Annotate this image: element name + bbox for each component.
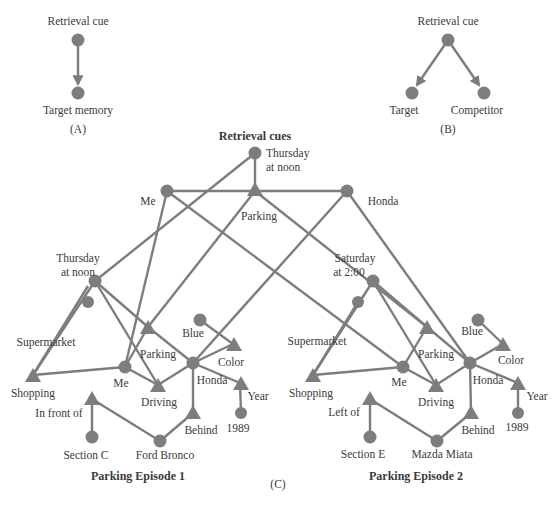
ep2-car-node xyxy=(431,435,444,448)
ep2-driving-label: Driving xyxy=(418,396,454,409)
ep1-car-node xyxy=(154,435,167,448)
panel-a-label: (A) xyxy=(70,123,86,136)
ep1-in-front-of-label: In front of xyxy=(35,407,82,419)
panel-b-label: (B) xyxy=(440,123,456,136)
retrieval-cue-label: Retrieval cue xyxy=(418,15,479,27)
retrieval-cue-label: Retrieval cue xyxy=(48,15,109,27)
target-memory-node xyxy=(72,87,85,100)
ep2-behind-node xyxy=(463,405,479,419)
ep2-time-node xyxy=(367,275,380,288)
ep1-behind-label: Behind xyxy=(184,424,217,436)
ep2-left-of-node xyxy=(362,391,378,405)
ep1-supermarket-node xyxy=(82,296,94,308)
ep2-year-node xyxy=(510,376,526,390)
ep1-car-label: Ford Bronco xyxy=(136,449,195,461)
target-node xyxy=(406,87,419,100)
ep1-section-label: Section C xyxy=(63,449,108,461)
ep2-honda-node xyxy=(464,357,477,370)
parking-episode-2: Saturday at 2:00 Supermarket Shopping Pa… xyxy=(288,252,548,483)
ep1-me-node xyxy=(119,361,132,374)
ep2-car-label: Mazda Miata xyxy=(412,448,473,460)
cue-me-node xyxy=(161,185,174,198)
cue-honda-label: Honda xyxy=(368,195,399,207)
ep2-supermarket-node xyxy=(352,296,364,308)
ep1-color-node xyxy=(226,337,242,351)
cue-parking-label: Parking xyxy=(241,210,277,223)
ep1-1989-node xyxy=(235,407,247,419)
ep1-color-label: Color xyxy=(218,356,244,368)
ep2-me-node xyxy=(397,361,410,374)
ep2-supermarket-label: Supermarket xyxy=(288,335,348,348)
retrieval-cue-node xyxy=(72,34,85,47)
ep1-parking-label: Parking xyxy=(140,348,176,361)
ep2-time-label-line1: Saturday xyxy=(335,252,376,265)
episode-2-title: Parking Episode 2 xyxy=(369,469,463,483)
ep1-honda-node xyxy=(187,357,200,370)
ep2-color-label: Color xyxy=(498,354,524,366)
cue-to-target-arrow xyxy=(417,40,448,85)
competitor-label: Competitor xyxy=(451,104,504,117)
ep1-section-node xyxy=(86,431,99,444)
ep1-blue-label: Blue xyxy=(182,327,204,339)
cue-parking-node xyxy=(247,182,263,196)
ep1-in-front-of-node xyxy=(84,391,100,405)
retrieval-cues-title: Retrieval cues xyxy=(219,129,292,143)
ep1-honda-label: Honda xyxy=(197,374,228,386)
cue-time-label-line1: Thursday xyxy=(266,147,310,160)
target-memory-label: Target memory xyxy=(43,104,113,117)
ep1-driving-label: Driving xyxy=(141,396,177,409)
ep2-left-of-label: Left of xyxy=(328,406,360,418)
ep2-blue-label: Blue xyxy=(461,325,483,337)
retrieval-cue-node xyxy=(442,34,455,47)
ep1-me-label: Me xyxy=(113,377,128,389)
ep2-honda-label: Honda xyxy=(473,374,504,386)
ep2-parking-label: Parking xyxy=(418,348,454,361)
ep1-time-label-line2: at noon xyxy=(61,266,95,278)
ep2-section-label: Section E xyxy=(341,448,385,460)
panel-c-label: (C) xyxy=(270,478,286,491)
ep1-blue-node xyxy=(194,314,207,327)
ep2-time-label-line2: at 2:00 xyxy=(333,266,365,278)
parking-episode-1: Thursday at noon Supermarket Shopping Pa… xyxy=(11,252,269,483)
cue-time-label-line2: at noon xyxy=(266,161,300,173)
ep1-1989-label: 1989 xyxy=(227,422,250,434)
ep2-1989-node xyxy=(512,407,524,419)
ep1-behind-node xyxy=(185,405,201,419)
panel-b: Retrieval cue Target Competitor (B) xyxy=(390,15,504,136)
ep2-shopping-label: Shopping xyxy=(289,387,333,400)
episode-1-title: Parking Episode 1 xyxy=(91,469,185,483)
ep2-section-node xyxy=(364,431,377,444)
panel-c: Retrieval cues Thursday at noon Me xyxy=(11,129,548,491)
ep2-behind-label: Behind xyxy=(461,424,494,436)
ep2-me-label: Me xyxy=(391,376,406,388)
cue-to-competitor-arrow xyxy=(448,40,479,85)
ep1-time-label-line1: Thursday xyxy=(56,252,100,265)
cue-to-episode-edges xyxy=(95,153,470,367)
ep2-1989-label: 1989 xyxy=(506,421,529,433)
panel-a: Retrieval cue Target memory (A) xyxy=(43,15,113,136)
ep1-shopping-label: Shopping xyxy=(11,387,55,400)
cue-time-node xyxy=(249,147,262,160)
competitor-node xyxy=(478,87,491,100)
ep1-year-node xyxy=(233,376,249,390)
ep2-year-label: Year xyxy=(526,390,547,402)
ep1-supermarket-label: Supermarket xyxy=(17,336,77,349)
ep1-year-label: Year xyxy=(247,390,268,402)
memory-network-diagram: Retrieval cue Target memory (A) Retrieva… xyxy=(0,0,557,511)
cue-me-label: Me xyxy=(140,195,155,207)
target-label: Target xyxy=(390,104,420,117)
cue-honda-node xyxy=(341,185,354,198)
